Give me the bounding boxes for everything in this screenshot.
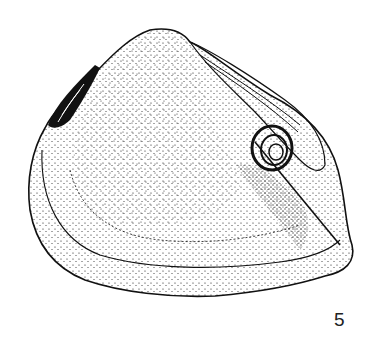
shell-illustration [0,0,376,346]
figure-number: 5 [334,310,345,329]
